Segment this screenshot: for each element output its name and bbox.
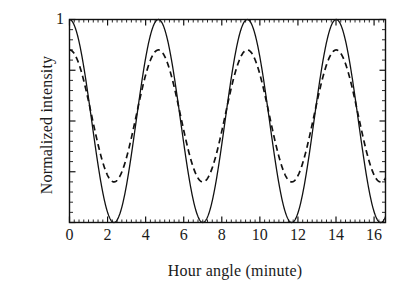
x-axis-tick-label-8: 8 <box>202 226 242 244</box>
x-axis-tick-label-0: 0 <box>50 226 90 244</box>
x-axis-tick-label-6: 6 <box>164 226 204 244</box>
x-axis-tick-label-16: 16 <box>354 226 394 244</box>
x-axis-label: Hour angle (minute) <box>135 262 335 280</box>
series-line-dashed <box>70 50 386 182</box>
y-axis-tick-label-1: 1 <box>44 10 64 28</box>
x-axis-tick-label-10: 10 <box>240 226 280 244</box>
chart-plot-area <box>0 0 405 297</box>
figure-container: Normalized intensity Hour angle (minute)… <box>0 0 405 297</box>
y-axis-label: Normalized intensity <box>38 5 56 245</box>
x-axis-tick-label-4: 4 <box>126 226 166 244</box>
x-axis-tick-label-12: 12 <box>278 226 318 244</box>
x-axis-tick-label-14: 14 <box>316 226 356 244</box>
x-axis-tick-label-2: 2 <box>88 226 128 244</box>
